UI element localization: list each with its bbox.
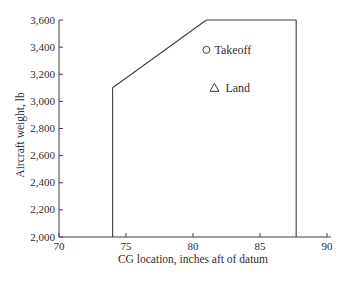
y-tick-label: 2,000 (30, 231, 55, 243)
chart-canvas: 70758085902,0002,2002,4002,6002,8003,000… (0, 0, 351, 281)
y-tick-label: 2,600 (30, 149, 55, 161)
x-tick-label: 75 (121, 240, 133, 252)
x-tick-label: 85 (255, 240, 267, 252)
y-tick-label: 2,200 (30, 203, 55, 215)
y-tick-label: 3,200 (30, 68, 55, 80)
cg-envelope-figure: 70758085902,0002,2002,4002,6002,8003,000… (0, 0, 351, 281)
y-tick-label: 3,400 (30, 41, 55, 53)
y-tick-label: 2,800 (30, 122, 55, 134)
y-tick-label: 2,400 (30, 176, 55, 188)
land-point-triangle-marker-icon (210, 83, 219, 91)
y-tick-label: 3,600 (30, 14, 55, 26)
takeoff-point-circle-marker-icon (203, 46, 210, 53)
x-tick-label: 80 (188, 240, 200, 252)
x-tick-label: 70 (54, 240, 66, 252)
x-axis-title: CG location, inches aft of datum (118, 253, 268, 265)
land-point-label: Land (225, 81, 250, 95)
y-axis-title: Aircraft weight, lb (14, 92, 26, 177)
y-tick-label: 3,000 (30, 95, 55, 107)
x-tick-label: 90 (322, 240, 334, 252)
takeoff-point-label: Takeoff (214, 43, 251, 57)
